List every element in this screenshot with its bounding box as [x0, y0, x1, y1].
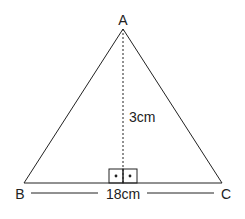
vertex-label-b: B	[15, 186, 24, 202]
vertex-label-a: A	[118, 12, 128, 28]
right-angle-dot-left	[115, 175, 118, 178]
height-label: 3cm	[129, 109, 155, 125]
vertex-label-c: C	[221, 186, 231, 202]
triangle-diagram: A B C 3cm 18cm	[0, 0, 245, 219]
base-label: 18cm	[106, 186, 140, 202]
right-angle-dot-right	[129, 175, 132, 178]
